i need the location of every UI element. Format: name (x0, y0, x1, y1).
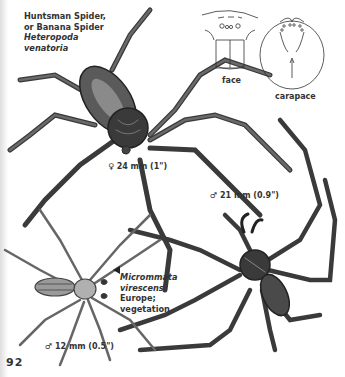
micrommata-scientific-name-2: virescens (120, 283, 178, 294)
face-label: face (222, 76, 241, 85)
huntsman-female-size: ♀ 24 mm (1") (108, 162, 167, 171)
micrommata-male-size: ♂ 12 mm (0.5") (45, 342, 114, 351)
spider-illustrations (0, 0, 345, 377)
huntsman-male-illustration (120, 120, 335, 350)
carapace-diagram (260, 18, 324, 89)
huntsman-scientific-name-2: venatoria (24, 43, 106, 54)
micrommata-scientific-name-1: Micrommata (120, 272, 178, 283)
carapace-label: carapace (275, 92, 316, 101)
micrommata-habitat: vegetation (120, 304, 178, 315)
micrommata-name-block: Micrommata virescens Europe; vegetation (120, 272, 178, 314)
huntsman-common-name-2: or Banana Spider (24, 22, 106, 33)
huntsman-name-block: Huntsman Spider, or Banana Spider Hetero… (24, 11, 106, 53)
huntsman-scientific-name-1: Heteropoda (24, 32, 106, 43)
micrommata-range: Europe; (120, 293, 178, 304)
huntsman-male-size: ♂ 21 mm (0.9") (210, 191, 279, 200)
face-diagram (202, 11, 258, 69)
page-number: 92 (6, 356, 23, 369)
huntsman-common-name-1: Huntsman Spider, (24, 11, 106, 22)
